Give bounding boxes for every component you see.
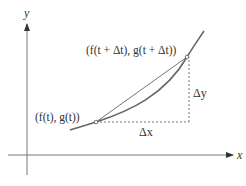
parametric-secant-diagram: x y (f(t), g(t)) (f(t + Δt), g(t + Δt)) … xyxy=(0,0,246,186)
point-end xyxy=(185,55,189,59)
point-start-label: (f(t), g(t)) xyxy=(35,111,80,124)
y-axis-label: y xyxy=(23,6,30,20)
point-start xyxy=(94,120,98,124)
x-axis-label: x xyxy=(236,148,243,162)
delta-y-label: Δy xyxy=(193,86,207,100)
secant-line xyxy=(96,57,187,122)
delta-x-label: Δx xyxy=(139,125,153,139)
point-end-label: (f(t + Δt), g(t + Δt)) xyxy=(86,44,177,57)
